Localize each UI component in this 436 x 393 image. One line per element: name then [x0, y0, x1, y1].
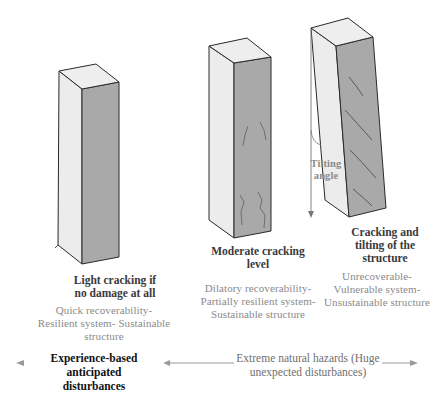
range-label-line: unexpected disturbances) — [228, 365, 388, 379]
description-line: Vulnerable system- — [318, 283, 436, 296]
column-2-title: Moderate cracking level — [203, 245, 313, 271]
column-1-description: Quick recoverability- Resilient system- … — [20, 304, 188, 343]
column-tilted-cracking — [311, 18, 386, 217]
title-line: level — [203, 258, 313, 271]
title-line: Cracking and — [335, 226, 435, 239]
column-1-left-face — [58, 71, 82, 264]
description-line: Resilient system- Sustainable — [20, 317, 188, 330]
reference-arrowhead-icon — [308, 211, 314, 218]
column-1-title: Light cracking if no damage at all — [55, 274, 175, 300]
title-line: tilting of the — [335, 239, 435, 252]
range-label-line: disturbances — [24, 379, 164, 393]
arrow-right-icon — [410, 360, 418, 366]
column-moderate-cracking — [209, 38, 271, 238]
description-line: Partially resilient system- — [190, 295, 326, 308]
column-3-description: Unrecoverable- Vulnerable system- Unsust… — [318, 270, 436, 309]
description-line: Sustainable structure — [190, 308, 326, 321]
column-2-left-face — [209, 46, 234, 238]
tilt-label-line: Tilting — [308, 158, 344, 170]
title-line: Moderate cracking — [203, 245, 313, 258]
column-3-title: Cracking and tilting of the structure — [335, 226, 435, 265]
column-light-cracking — [55, 64, 119, 264]
description-line: Quick recoverability- — [20, 304, 188, 317]
tilt-angle-label: Tilting angle — [308, 158, 344, 182]
arrow-left-icon — [16, 360, 24, 366]
range-label-line: Extreme natural hazards (Huge — [234, 351, 381, 365]
column-1-base-tick — [55, 245, 58, 248]
title-line: Light cracking if — [55, 274, 175, 287]
anticipated-disturbances-label: Experience-based anticipated disturbance… — [24, 351, 164, 393]
column-1-right-face — [82, 82, 119, 264]
description-line: Unsustainable structure — [318, 296, 436, 309]
title-line: structure — [335, 252, 435, 265]
arrow-left-icon — [163, 360, 170, 366]
column-2-right-face — [234, 57, 271, 238]
title-line: no damage at all — [55, 287, 175, 300]
tilt-label-line: angle — [308, 170, 344, 182]
column-2-description: Dilatory recoverability- Partially resil… — [190, 282, 326, 321]
extreme-hazards-label: Extreme natural hazards (Huge unexpected… — [228, 351, 388, 379]
description-line: Dilatory recoverability- — [190, 282, 326, 295]
range-label-line: Experience-based anticipated — [24, 351, 164, 379]
description-line: structure — [20, 330, 188, 343]
description-line: Unrecoverable- — [318, 270, 436, 283]
